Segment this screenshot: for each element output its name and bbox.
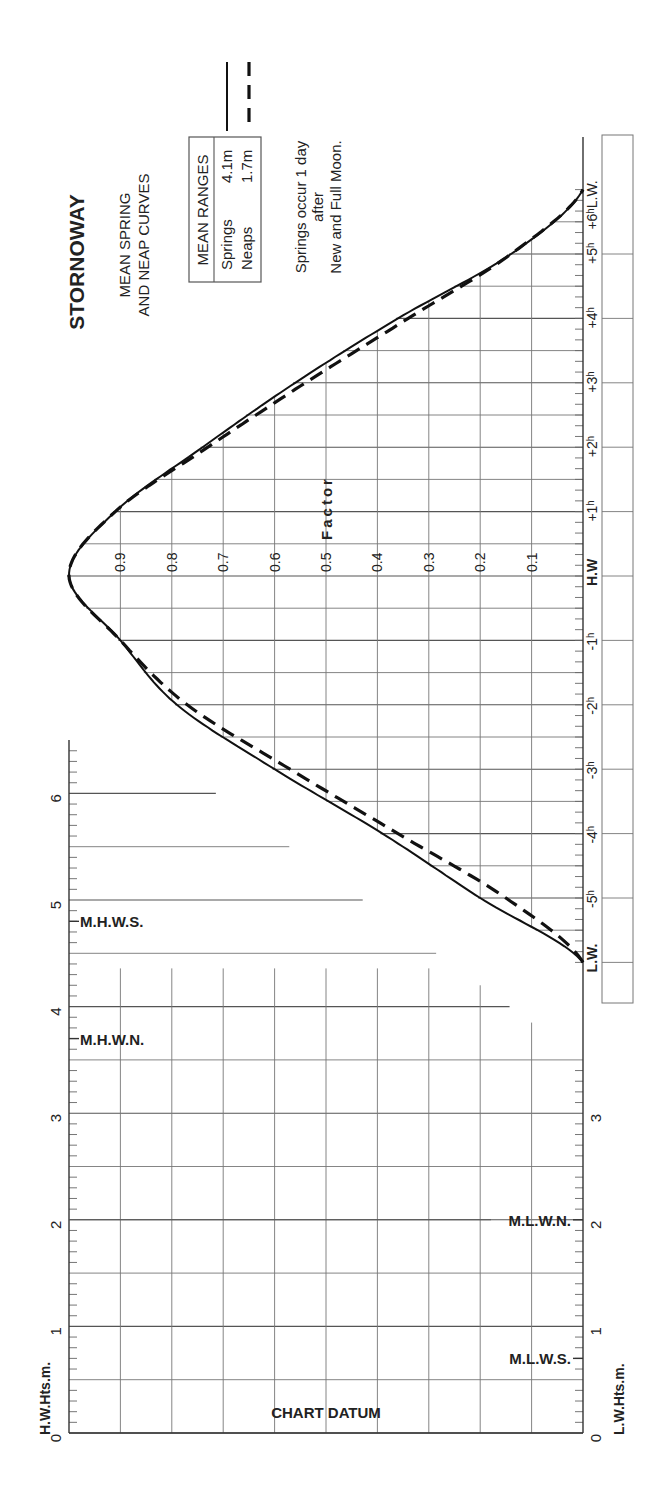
time-label: +1ʰ [584,500,600,521]
time-label: -5ʰ [584,890,600,908]
factor-tick-label: 0.9 [112,552,128,572]
lw-tick-label: 0 [587,1434,604,1442]
time-label: -4ʰ [584,826,600,844]
lw-tick-label: 2 [587,1221,604,1229]
time-strip [602,135,633,1003]
lw-tick-label: 1 [587,1327,604,1335]
note-line-3: New and Full Moon. [327,140,344,273]
hw-tick-label: 6 [47,794,64,802]
time-label: +4ʰ [584,307,600,328]
legend-springs-label: Springs [218,219,235,270]
factor-tick-label: 0.2 [472,552,488,572]
time-label: -2ʰ [584,697,600,715]
time-label: -1ʰ [584,633,600,651]
note-line-1: Springs occur 1 day [292,140,309,273]
mlws-label: M.L.W.S. [509,1350,571,1367]
time-label: L.W. [584,944,600,973]
hw-tick-label: 4 [47,1007,64,1015]
time-label: +3ʰ [584,371,600,392]
grid [67,135,633,1433]
time-label: +2ʰ [584,436,600,457]
hw-axis-label: H.W.Hts.m. [37,1362,53,1435]
labels: 0.90.80.70.60.50.40.30.20.1Factor0123456… [37,62,627,1442]
factor-tick-label: 0.5 [318,552,334,572]
time-label: -3ʰ [584,761,600,779]
time-label: +6ʰL.W. [584,180,600,229]
factor-tick-label: 0.1 [524,552,540,572]
factor-tick-label: 0.4 [369,552,385,572]
time-label: +5ʰ [584,243,600,264]
factor-tick-label: 0.3 [421,552,437,572]
hw-tick-label: 2 [47,1221,64,1229]
subtitle-line-2: AND NEAP CURVES [135,174,152,317]
legend-neaps-label: Neaps [238,227,255,270]
factor-axis-label: Factor [318,476,335,540]
subtitle-line-1: MEAN SPRING [116,192,133,297]
mhwn-label: M.H.W.N. [80,1031,144,1048]
chart-datum-label: CHART DATUM [271,1404,381,1421]
time-label: H.W [584,558,600,586]
lw-axis-label: L.W.Hts.m. [611,1363,627,1435]
mlwn-label: M.L.W.N. [509,1212,572,1229]
legend-header: MEAN RANGES [194,155,211,266]
note-line-2: after [309,192,326,222]
hw-tick-label: 3 [47,1114,64,1122]
legend-springs-value: 4.1m [218,150,235,183]
hw-tick-label: 1 [47,1327,64,1335]
factor-tick-label: 0.6 [267,552,283,572]
chart-title: STORNOWAY [65,194,88,329]
tidal-curve-chart: 0.90.80.70.60.50.40.30.20.1Factor0123456… [0,0,670,1497]
hw-tick-label: 5 [47,901,64,909]
factor-tick-label: 0.7 [215,552,231,572]
mhws-label: M.H.W.S. [80,913,143,930]
lw-tick-label: 3 [587,1114,604,1122]
legend-neaps-value: 1.7m [238,150,255,183]
factor-tick-label: 0.8 [164,552,180,572]
